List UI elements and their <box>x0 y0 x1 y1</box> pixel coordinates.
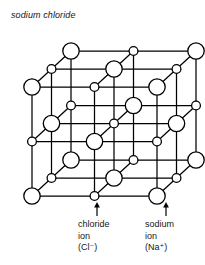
chloride-ion-node <box>168 115 184 131</box>
sodium-ion-node <box>129 156 138 165</box>
sodium-ion-caption: sodium ion (Na⁺) <box>145 219 174 254</box>
chloride-ion-node <box>43 115 59 131</box>
sodium-ion-node <box>153 137 162 146</box>
sodium-chloride-figure: sodium chloride chloride ion (Cl⁻) sodiu… <box>0 0 205 265</box>
sodium-ion-node <box>67 101 76 110</box>
chloride-caption-line-3: (Cl⁻) <box>78 242 110 254</box>
chloride-ion-node <box>106 170 122 186</box>
chloride-ion-node <box>86 133 102 149</box>
chloride-pointer <box>94 202 100 216</box>
sodium-caption-line-1: sodium <box>145 219 174 231</box>
sodium-ion-node <box>129 47 138 56</box>
chloride-caption-line-1: chloride <box>78 219 110 231</box>
sodium-caption-line-3: (Na⁺) <box>145 242 174 254</box>
sodium-ion-node <box>47 65 56 74</box>
ion-group <box>24 43 204 204</box>
sodium-ion-node <box>28 137 37 146</box>
chloride-ion-node <box>188 43 204 59</box>
sodium-ion-node <box>90 192 99 201</box>
chloride-ion-node <box>149 188 165 204</box>
chloride-ion-caption: chloride ion (Cl⁻) <box>78 219 110 254</box>
sodium-pointer <box>163 202 169 216</box>
sodium-ion-node <box>47 174 56 183</box>
chloride-ion-node <box>24 188 40 204</box>
chloride-ion-node <box>149 79 165 95</box>
sodium-ion-node <box>192 101 201 110</box>
chloride-ion-node <box>125 97 141 113</box>
chloride-ion-node <box>24 79 40 95</box>
sodium-ion-node <box>172 65 181 74</box>
chloride-caption-line-2: ion <box>78 231 110 243</box>
chloride-ion-node <box>63 152 79 168</box>
sodium-caption-line-2: ion <box>145 231 174 243</box>
chloride-ion-node <box>188 152 204 168</box>
figure-title: sodium chloride <box>11 10 76 20</box>
sodium-ion-node <box>110 119 119 128</box>
chloride-ion-node <box>106 61 122 77</box>
sodium-ion-node <box>172 174 181 183</box>
chloride-ion-node <box>63 43 79 59</box>
sodium-ion-node <box>90 83 99 92</box>
